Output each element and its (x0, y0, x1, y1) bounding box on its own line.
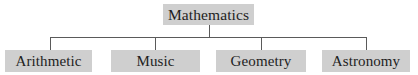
child-node-music: Music (111, 50, 200, 72)
astronomy-connector (366, 37, 367, 50)
child-node-astronomy: Astronomy (322, 50, 410, 72)
root-node-mathematics: Mathematics (163, 4, 254, 25)
child-node-geometry: Geometry (216, 50, 306, 72)
music-connector (155, 37, 156, 50)
arithmetic-connector (50, 37, 51, 50)
geometry-connector (261, 37, 262, 50)
horizontal-bus-connector (50, 37, 367, 38)
child-node-arithmetic: Arithmetic (5, 50, 92, 72)
